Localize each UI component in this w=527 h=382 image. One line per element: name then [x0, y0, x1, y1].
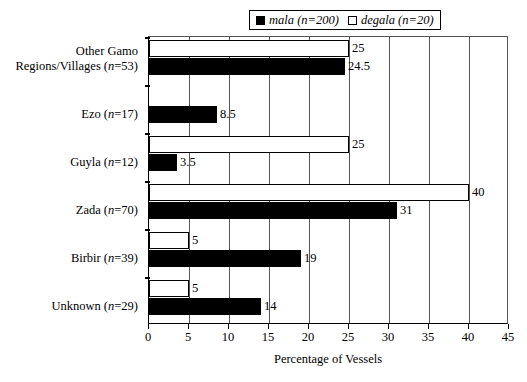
legend-entry-mala: mala (n=200): [256, 14, 339, 27]
y-label-other-gamo-line1: Other Gamo: [0, 44, 138, 58]
bar-group: 8.5: [149, 85, 507, 133]
y-label-birbir: Birbir (n=39): [0, 251, 138, 265]
legend-label-mala: mala (n=200): [269, 14, 339, 27]
x-axis-tick-label: 5: [185, 330, 191, 344]
bar-value-label-mala: 14: [261, 298, 277, 315]
y-axis-tick: [145, 85, 150, 87]
bar-value-label-mala: 31: [397, 202, 413, 219]
x-axis-title: Percentage of Vessels: [148, 352, 508, 367]
bar-degala[interactable]: [149, 40, 349, 57]
bar-group: 514: [149, 277, 507, 325]
bar-value-label-mala: 24.5: [345, 58, 370, 75]
x-axis-tick: [148, 324, 149, 329]
bar-group: 253.5: [149, 133, 507, 181]
x-axis-tick-label: 0: [145, 330, 151, 344]
legend-swatch-degala-icon: [348, 16, 357, 25]
bar-value-label-degala: 25: [349, 136, 365, 153]
bar-value-label-mala: 8.5: [217, 106, 236, 123]
x-axis-tick-label: 40: [462, 330, 475, 344]
y-label-ezo: Ezo (n=17): [0, 107, 138, 121]
x-axis-tick-label: 20: [302, 330, 315, 344]
bar-value-label-mala: 19: [301, 250, 317, 267]
plot-area: 2524.58.5253.54031519514: [148, 36, 508, 324]
x-axis-tick-label: 15: [262, 330, 275, 344]
bar-value-label-degala: 5: [189, 280, 198, 297]
bar-value-label-degala: 40: [469, 184, 485, 201]
y-axis-tick: [145, 229, 150, 231]
y-axis-tick: [145, 277, 150, 279]
bar-degala[interactable]: [149, 136, 349, 153]
y-axis-tick: [145, 133, 150, 135]
chart-legend: mala (n=200) degala (n=20): [249, 10, 441, 30]
legend-entry-degala: degala (n=20): [348, 14, 434, 27]
legend-swatch-mala-icon: [256, 16, 265, 25]
y-label-other-gamo-line2: Regions/Villages (n=53): [0, 59, 138, 73]
x-axis-tick: [308, 324, 309, 329]
bar-mala[interactable]: [149, 202, 397, 219]
y-axis-labels: Other Gamo Regions/Villages (n=53) Ezo (…: [0, 36, 144, 324]
x-axis-tick: [508, 324, 509, 329]
bar-mala[interactable]: [149, 250, 301, 267]
bar-degala[interactable]: [149, 184, 469, 201]
y-axis-tick: [145, 37, 150, 39]
bar-group: 519: [149, 229, 507, 277]
x-axis-tick: [268, 324, 269, 329]
x-axis-tick: [388, 324, 389, 329]
bar-mala[interactable]: [149, 154, 177, 171]
bar-degala[interactable]: [149, 280, 189, 297]
bar-value-label-degala: 25: [349, 40, 365, 57]
x-axis-tick: [348, 324, 349, 329]
x-axis-tick: [468, 324, 469, 329]
x-axis-tick: [188, 324, 189, 329]
bar-group: 2524.5: [149, 37, 507, 85]
bar-mala[interactable]: [149, 298, 261, 315]
y-label-guyla: Guyla (n=12): [0, 155, 138, 169]
x-axis-tick: [428, 324, 429, 329]
legend-label-degala: degala (n=20): [361, 14, 434, 27]
x-axis: 051015202530354045: [148, 324, 508, 354]
bar-value-label-degala: 5: [189, 232, 198, 249]
x-axis-tick-label: 45: [502, 330, 515, 344]
y-axis-tick: [145, 181, 150, 183]
x-axis-tick-label: 30: [382, 330, 395, 344]
bar-degala[interactable]: [149, 232, 189, 249]
bar-mala[interactable]: [149, 58, 345, 75]
x-axis-tick: [228, 324, 229, 329]
x-axis-tick-label: 25: [342, 330, 355, 344]
bar-chart: mala (n=200) degala (n=20) Other Gamo Re…: [0, 0, 527, 382]
y-label-unknown: Unknown (n=29): [0, 299, 138, 313]
bar-mala[interactable]: [149, 106, 217, 123]
x-axis-tick-label: 10: [222, 330, 235, 344]
x-axis-tick-label: 35: [422, 330, 435, 344]
bar-value-label-mala: 3.5: [177, 154, 196, 171]
bar-group: 4031: [149, 181, 507, 229]
y-label-zada: Zada (n=70): [0, 203, 138, 217]
